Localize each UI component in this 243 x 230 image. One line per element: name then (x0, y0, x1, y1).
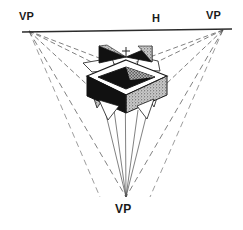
center-cross-mark (122, 47, 130, 56)
horizon-label: H (152, 13, 160, 24)
box-object (83, 45, 167, 120)
perspective-construction-svg (0, 0, 243, 230)
construction-line-bottom-4 (126, 110, 138, 197)
vp-right-label: VP (206, 10, 221, 21)
construction-line-left-5 (29, 31, 100, 197)
horizon-line (22, 29, 232, 32)
vp-bottom-label: VP (115, 203, 131, 215)
vp-left-label: VP (19, 11, 34, 22)
construction-line-right-5 (150, 30, 223, 197)
perspective-diagram: VP H VP VP (0, 0, 243, 230)
